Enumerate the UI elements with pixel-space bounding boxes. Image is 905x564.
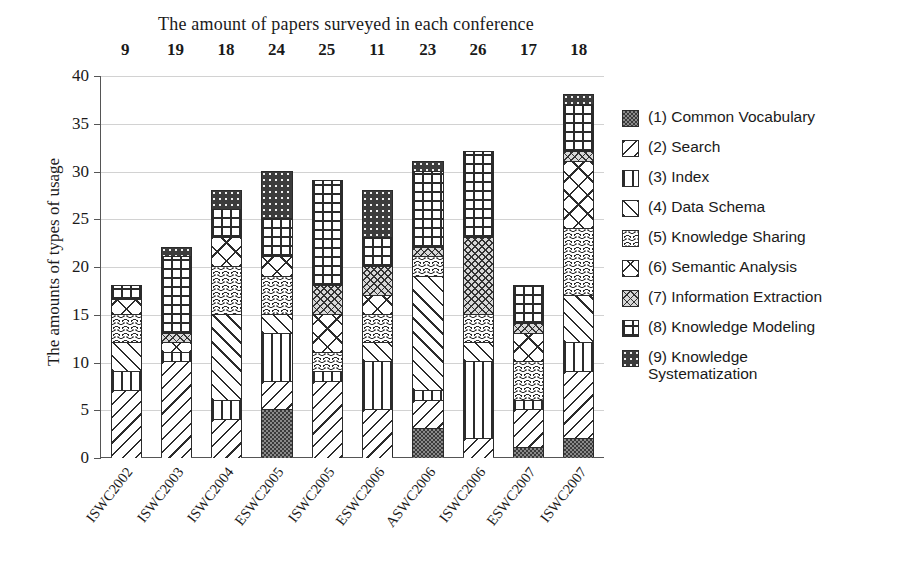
bar-segment[interactable] <box>413 277 442 392</box>
stacked-bar[interactable] <box>261 171 292 458</box>
bar-segment[interactable] <box>564 105 593 153</box>
bar-segment[interactable] <box>162 257 191 333</box>
bar-segment[interactable] <box>262 410 291 458</box>
bar-segment[interactable] <box>313 382 342 458</box>
y-axis-title: The amounts of types of usage <box>44 112 64 412</box>
bar-segment[interactable] <box>413 257 442 276</box>
bar-segment[interactable] <box>413 401 442 430</box>
y-axis-tick <box>94 267 101 268</box>
bar-segment[interactable] <box>262 172 291 220</box>
bar-segment[interactable] <box>363 267 392 296</box>
bar-segment[interactable] <box>564 296 593 344</box>
bar-segment[interactable] <box>363 410 392 458</box>
bar-segment[interactable] <box>514 448 543 458</box>
papers-surveyed-count: 17 <box>503 40 553 60</box>
bar-segment[interactable] <box>564 162 593 229</box>
bar-segment[interactable] <box>212 238 241 267</box>
bar-segment[interactable] <box>413 248 442 258</box>
bar-segment[interactable] <box>112 300 141 314</box>
papers-surveyed-row: 9191824251123261718 <box>100 40 604 60</box>
bar-segment[interactable] <box>162 362 191 458</box>
x-axis-tick-label: ISWC2002 <box>83 464 137 526</box>
stacked-bar[interactable] <box>312 180 343 457</box>
stacked-bar[interactable] <box>563 94 594 457</box>
bar-segment[interactable] <box>514 334 543 363</box>
bar-segment[interactable] <box>162 248 191 258</box>
bar-segment[interactable] <box>212 420 241 458</box>
bar-segment[interactable] <box>162 343 191 353</box>
bar-segment[interactable] <box>212 315 241 401</box>
bar-segment[interactable] <box>464 439 493 458</box>
bar-segment[interactable] <box>262 334 291 382</box>
bar-segment[interactable] <box>564 229 593 296</box>
stacked-bar[interactable] <box>111 285 142 457</box>
bar-segment[interactable] <box>363 191 392 239</box>
stacked-bar[interactable] <box>211 190 242 457</box>
bar-segment[interactable] <box>464 315 493 344</box>
bar-segment[interactable] <box>464 238 493 314</box>
bar-segment[interactable] <box>514 410 543 448</box>
bar-segment[interactable] <box>514 362 543 400</box>
bar-segment[interactable] <box>313 286 342 315</box>
bar-segment[interactable] <box>363 343 392 362</box>
bar-segment[interactable] <box>262 257 291 276</box>
y-axis-tick <box>94 172 101 173</box>
bar-segment[interactable] <box>363 315 392 344</box>
bar-segment[interactable] <box>464 152 493 238</box>
bar-segment[interactable] <box>262 382 291 411</box>
bar-segment[interactable] <box>464 343 493 362</box>
bar-segment[interactable] <box>564 439 593 458</box>
stacked-bar[interactable] <box>412 161 443 457</box>
bar-segment[interactable] <box>564 152 593 162</box>
legend-item[interactable]: (2) Search <box>622 138 900 157</box>
bar-segment[interactable] <box>313 181 342 286</box>
bar-segment[interactable] <box>162 334 191 344</box>
legend-item[interactable]: (9) KnowledgeSystematization <box>622 348 900 382</box>
bar-segment[interactable] <box>313 315 342 353</box>
stacked-bar[interactable] <box>362 190 393 457</box>
bar-segment[interactable] <box>262 219 291 257</box>
bar-segment[interactable] <box>162 353 191 363</box>
bar-segment[interactable] <box>363 238 392 267</box>
legend-label: (5) Knowledge Sharing <box>648 228 806 245</box>
bar-segment[interactable] <box>514 401 543 411</box>
bar-segment[interactable] <box>112 372 141 391</box>
bar-segment[interactable] <box>212 401 241 420</box>
bar-segment[interactable] <box>564 343 593 372</box>
legend-item[interactable]: (8) Knowledge Modeling <box>622 318 900 337</box>
bar-segment[interactable] <box>464 362 493 438</box>
stacked-bar[interactable] <box>463 151 494 457</box>
bar-segment[interactable] <box>112 315 141 344</box>
bar-segment[interactable] <box>262 277 291 315</box>
bar-segment[interactable] <box>514 286 543 324</box>
legend-item[interactable]: (5) Knowledge Sharing <box>622 228 900 247</box>
bar-segment[interactable] <box>262 315 291 334</box>
legend-item[interactable]: (1) Common Vocabulary <box>622 108 900 127</box>
bar-segment[interactable] <box>363 296 392 315</box>
bar-segment[interactable] <box>112 343 141 372</box>
legend-swatch-icon <box>622 170 639 187</box>
bar-segment[interactable] <box>413 391 442 401</box>
bar-segment[interactable] <box>212 210 241 239</box>
bar-segment[interactable] <box>564 95 593 105</box>
legend-item[interactable]: (3) Index <box>622 168 900 187</box>
bar-segment[interactable] <box>112 286 141 300</box>
bar-segment[interactable] <box>413 162 442 172</box>
bar-segment[interactable] <box>514 324 543 334</box>
legend-item[interactable]: (4) Data Schema <box>622 198 900 217</box>
legend-label: (8) Knowledge Modeling <box>648 318 815 335</box>
bar-segment[interactable] <box>564 372 593 439</box>
bar-segment[interactable] <box>413 429 442 458</box>
bar-segment[interactable] <box>212 191 241 210</box>
legend-item[interactable]: (7) Information Extraction <box>622 288 900 307</box>
bar-segment[interactable] <box>212 267 241 315</box>
bar-segment[interactable] <box>313 353 342 372</box>
bar-segment[interactable] <box>413 172 442 248</box>
bar-segment[interactable] <box>313 372 342 382</box>
stacked-bar[interactable] <box>513 285 544 457</box>
stacked-bar[interactable] <box>161 247 192 457</box>
bar-segment[interactable] <box>112 391 141 458</box>
y-axis-tick-label: 5 <box>81 400 90 420</box>
bar-segment[interactable] <box>363 362 392 410</box>
legend-item[interactable]: (6) Semantic Analysis <box>622 258 900 277</box>
